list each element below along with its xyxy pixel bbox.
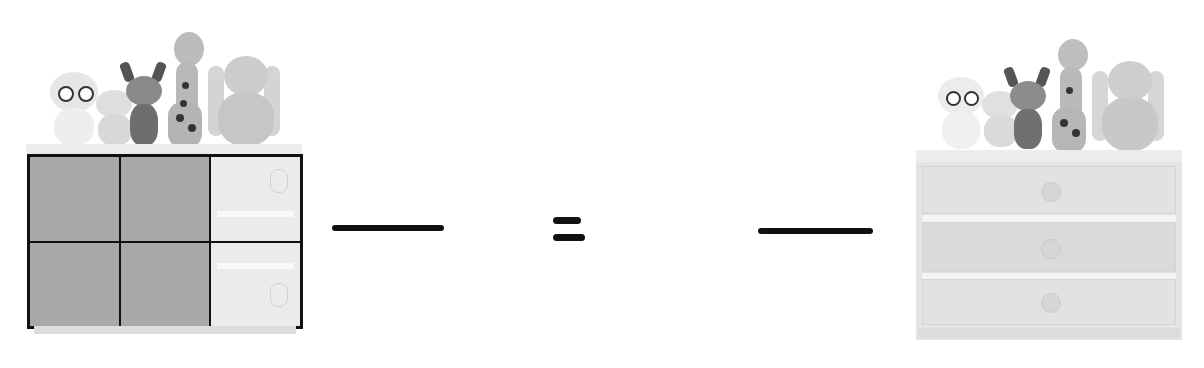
drawer-gap bbox=[922, 215, 1176, 222]
right-fraction-bar[interactable] bbox=[758, 228, 873, 234]
owl-toy-icon bbox=[938, 77, 984, 149]
bunny-toy-icon bbox=[1086, 61, 1176, 151]
bunny-carving-icon bbox=[270, 169, 288, 193]
drawer-bottom bbox=[922, 279, 1176, 325]
owl-toy-icon bbox=[50, 72, 98, 146]
grid-cell-shaded bbox=[29, 242, 120, 328]
drawer-knob-icon bbox=[1041, 293, 1061, 313]
grid-cell-shaded bbox=[120, 156, 211, 242]
grid-cell-shaded bbox=[29, 156, 120, 242]
grid-cell-shaded bbox=[120, 242, 211, 328]
equals-bar-bottom bbox=[553, 234, 585, 241]
equals-bar-top bbox=[553, 217, 581, 224]
bunny-toy-icon bbox=[202, 56, 292, 148]
left-dresser-figure bbox=[0, 0, 320, 368]
bunny-carving-icon bbox=[270, 283, 288, 307]
dresser-base bbox=[918, 328, 1180, 338]
drawer-knob-icon bbox=[1041, 182, 1061, 202]
fraction-grid bbox=[27, 154, 303, 329]
dresser-base bbox=[34, 326, 296, 334]
dresser-top bbox=[916, 150, 1182, 162]
toys-group bbox=[930, 25, 1180, 155]
drawer-middle bbox=[922, 222, 1176, 272]
equals-sign bbox=[552, 215, 586, 245]
drawer-knob-icon bbox=[1041, 239, 1061, 259]
toys-group bbox=[40, 20, 300, 150]
dresser-top bbox=[26, 144, 302, 154]
grid-cell-unshaded bbox=[210, 156, 301, 242]
left-fraction-bar[interactable] bbox=[332, 225, 444, 231]
right-dresser-figure bbox=[890, 0, 1204, 368]
drawer-top bbox=[922, 166, 1176, 214]
grid-cell-unshaded bbox=[210, 242, 301, 328]
